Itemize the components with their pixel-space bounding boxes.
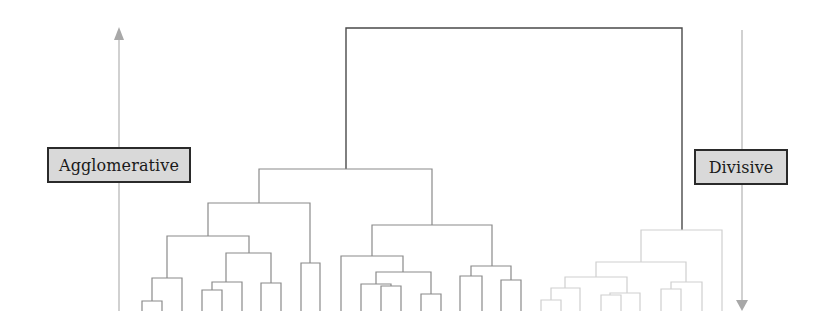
arrow-down-icon <box>736 300 748 311</box>
agglomerative-label: Agglomerative <box>47 147 191 183</box>
arrow-up-icon <box>114 27 124 40</box>
dendrogram-figure: Agglomerative Divisive <box>0 0 826 329</box>
root-link <box>346 28 682 230</box>
left-middle-subtree <box>142 169 521 311</box>
divisive-label: Divisive <box>694 149 788 185</box>
right-subtree <box>541 230 722 311</box>
